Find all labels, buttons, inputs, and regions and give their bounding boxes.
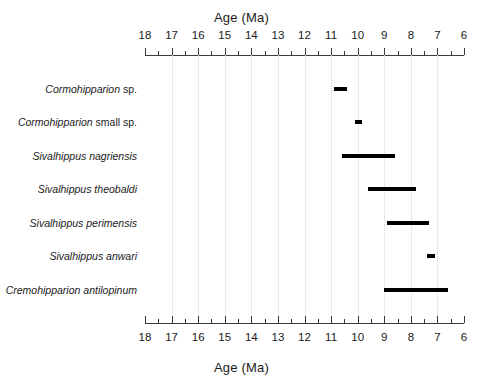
plot-area bbox=[145, 55, 464, 323]
tick-major bbox=[437, 48, 438, 55]
axis-title-bottom: Age (Ma) bbox=[0, 360, 483, 375]
tick-label: 11 bbox=[319, 331, 343, 343]
tick-major bbox=[305, 48, 306, 55]
taxon-label: Cremohipparion antilopinum bbox=[6, 284, 137, 296]
tick-label: 18 bbox=[133, 29, 157, 41]
tick-major bbox=[464, 48, 465, 55]
taxon-epithet: theobaldi bbox=[91, 183, 137, 195]
tick-major bbox=[172, 48, 173, 55]
axis-spine-bottom bbox=[145, 323, 464, 324]
tick-label: 10 bbox=[346, 29, 370, 41]
tick-major bbox=[278, 48, 279, 55]
tick-label: 9 bbox=[372, 29, 396, 41]
range-bar bbox=[334, 87, 347, 91]
tick-label: 15 bbox=[213, 29, 237, 41]
tick-major bbox=[172, 316, 173, 323]
tick-label: 8 bbox=[399, 331, 423, 343]
tick-major bbox=[145, 48, 146, 55]
taxon-label: Cormohipparion small sp. bbox=[18, 116, 137, 128]
taxon-epithet: small sp. bbox=[93, 116, 137, 128]
tick-minor bbox=[318, 319, 319, 323]
range-bar bbox=[368, 187, 416, 191]
tick-major bbox=[384, 316, 385, 323]
tick-major bbox=[437, 316, 438, 323]
gridline bbox=[305, 55, 306, 323]
tick-major bbox=[331, 316, 332, 323]
tick-label: 7 bbox=[425, 331, 449, 343]
tick-label: 16 bbox=[186, 29, 210, 41]
tick-label: 16 bbox=[186, 331, 210, 343]
tick-major bbox=[305, 316, 306, 323]
tick-minor bbox=[211, 319, 212, 323]
tick-major bbox=[358, 48, 359, 55]
tick-label: 7 bbox=[425, 29, 449, 41]
gridline bbox=[251, 55, 252, 323]
tick-major bbox=[198, 48, 199, 55]
tick-major bbox=[251, 316, 252, 323]
tick-major bbox=[384, 48, 385, 55]
taxon-epithet: anwari bbox=[103, 250, 137, 262]
tick-label: 9 bbox=[372, 331, 396, 343]
tick-minor bbox=[371, 319, 372, 323]
gridline bbox=[358, 55, 359, 323]
tick-major bbox=[278, 316, 279, 323]
taxon-label: Sivalhippus anwari bbox=[49, 250, 137, 262]
taxon-genus: Cormohipparion bbox=[18, 116, 93, 128]
taxon-label: Sivalhippus nagriensis bbox=[33, 150, 137, 162]
tick-label: 17 bbox=[160, 29, 184, 41]
gridline bbox=[225, 55, 226, 323]
taxon-label: Sivalhippus perimensis bbox=[30, 217, 137, 229]
tick-label: 10 bbox=[346, 331, 370, 343]
tick-major bbox=[225, 316, 226, 323]
tick-minor bbox=[344, 319, 345, 323]
tick-minor bbox=[424, 319, 425, 323]
range-bar bbox=[387, 221, 430, 225]
tick-label: 14 bbox=[239, 331, 263, 343]
range-bar bbox=[355, 120, 362, 124]
tick-major bbox=[464, 316, 465, 323]
taxon-label: Sivalhippus theobaldi bbox=[38, 183, 137, 195]
tick-minor bbox=[451, 319, 452, 323]
tick-major bbox=[358, 316, 359, 323]
taxon-label: Cormohipparion sp. bbox=[45, 83, 137, 95]
taxon-genus: Sivalhippus bbox=[38, 183, 92, 195]
gridline bbox=[331, 55, 332, 323]
tick-label: 18 bbox=[133, 331, 157, 343]
tick-minor bbox=[238, 319, 239, 323]
tick-minor bbox=[291, 319, 292, 323]
tick-label: 13 bbox=[266, 29, 290, 41]
taxon-genus: Sivalhippus bbox=[33, 150, 87, 162]
tick-label: 14 bbox=[239, 29, 263, 41]
tick-major bbox=[251, 48, 252, 55]
tick-major bbox=[145, 316, 146, 323]
tick-label: 11 bbox=[319, 29, 343, 41]
taxon-epithet: sp. bbox=[120, 83, 137, 95]
tick-label: 6 bbox=[452, 331, 476, 343]
taxon-genus: Cormohipparion bbox=[45, 83, 120, 95]
gridline bbox=[437, 55, 438, 323]
range-bar bbox=[384, 288, 448, 292]
gridline bbox=[172, 55, 173, 323]
tick-minor bbox=[158, 319, 159, 323]
axis-title-top: Age (Ma) bbox=[0, 10, 483, 25]
tick-label: 8 bbox=[399, 29, 423, 41]
range-bar bbox=[427, 254, 435, 258]
range-chart-figure: Age (Ma) 1817161514131211109876 Cormohip… bbox=[0, 0, 483, 388]
taxon-epithet: perimensis bbox=[83, 217, 137, 229]
taxon-epithet: nagriensis bbox=[86, 150, 137, 162]
taxon-genus: Sivalhippus bbox=[30, 217, 84, 229]
tick-label: 12 bbox=[293, 29, 317, 41]
tick-label: 13 bbox=[266, 331, 290, 343]
taxon-epithet: antilopinum bbox=[80, 284, 137, 296]
taxon-genus: Sivalhippus bbox=[49, 250, 103, 262]
tick-label: 6 bbox=[452, 29, 476, 41]
gridline bbox=[198, 55, 199, 323]
tick-major bbox=[331, 48, 332, 55]
taxon-genus: Cremohipparion bbox=[6, 284, 81, 296]
tick-minor bbox=[185, 319, 186, 323]
range-bar bbox=[342, 154, 395, 158]
tick-major bbox=[411, 316, 412, 323]
gridline bbox=[278, 55, 279, 323]
tick-label: 17 bbox=[160, 331, 184, 343]
tick-minor bbox=[398, 319, 399, 323]
